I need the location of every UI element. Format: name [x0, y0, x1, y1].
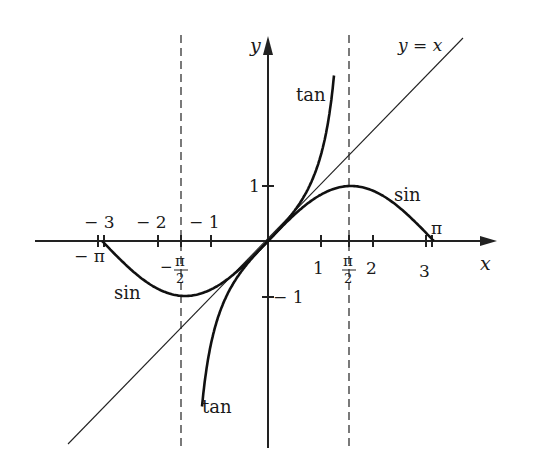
ytick-label-1: 1	[249, 176, 260, 196]
trig-diagram: y x y = x tan tan sin sin π − π − 3 − 2 …	[0, 0, 537, 475]
tan-lower-label: tan	[202, 396, 232, 417]
sin-left-label: sin	[114, 282, 141, 303]
tick-label-2: 2	[366, 258, 377, 278]
x-axis-label: x	[480, 252, 491, 274]
pi-half-numerator: π	[343, 252, 353, 270]
neg-pi-label: − π	[74, 246, 105, 266]
y-axis-arrow-icon	[263, 36, 273, 55]
x-axis-arrow-icon	[480, 236, 497, 246]
identity-line-label: y = x	[397, 35, 443, 55]
sin-right-label: sin	[394, 184, 421, 205]
diagram-canvas: y x y = x tan tan sin sin π − π − 3 − 2 …	[0, 0, 537, 475]
pi-half-denominator: 2	[344, 271, 352, 286]
tan-upper-label: tan	[296, 84, 326, 105]
neg-pi-half-numerator: π	[175, 252, 185, 270]
neg-pi-half-denominator: 2	[176, 271, 184, 286]
y-axis-label: y	[249, 34, 261, 56]
ytick-label-neg1: − 1	[273, 287, 303, 307]
tick-label-neg2: − 2	[136, 212, 166, 232]
tick-label-1: 1	[313, 258, 324, 278]
neg-pi-half-minus: −	[160, 258, 173, 276]
tick-label-neg3: − 3	[84, 212, 114, 232]
tick-label-3: 3	[419, 261, 430, 281]
tick-label-neg1: − 1	[189, 212, 219, 232]
pi-label: π	[431, 218, 442, 238]
